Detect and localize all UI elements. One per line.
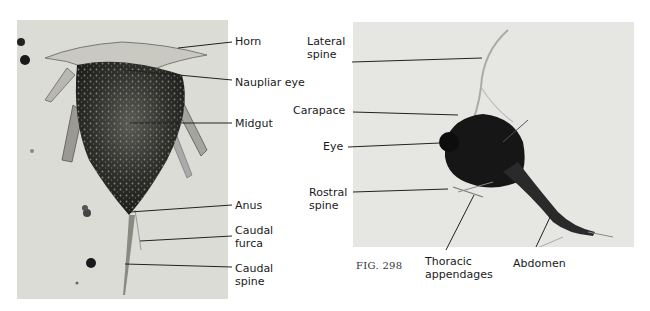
label-caudal-spine: Caudal spine <box>235 262 273 288</box>
label-eye: Eye <box>323 140 343 153</box>
label-abdomen: Abdomen <box>513 257 566 270</box>
zoea-photo <box>353 22 634 247</box>
label-lateral-spine: Lateral spine <box>307 35 345 61</box>
label-naupliar-eye: Naupliar eye <box>235 76 305 89</box>
label-caudal-furca: Caudal furca <box>235 224 273 250</box>
zoea-specimen-illustration <box>353 22 634 247</box>
nauplius-specimen-illustration <box>17 20 228 299</box>
label-thoracic-appendages: Thoracic appendages <box>425 255 493 281</box>
label-horn: Horn <box>235 35 261 48</box>
figure-number: FIG. 298 <box>356 260 402 271</box>
label-rostral-spine: Rostral spine <box>309 186 347 212</box>
label-carapace: Carapace <box>293 104 345 117</box>
nauplius-photo <box>17 20 228 299</box>
label-anus: Anus <box>235 199 262 212</box>
label-midgut: Midgut <box>235 117 273 130</box>
